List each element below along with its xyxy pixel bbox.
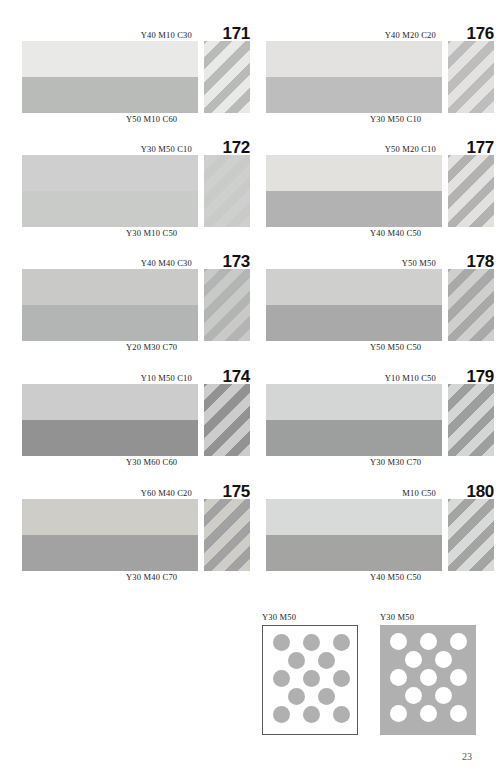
swatch-body [22, 269, 250, 341]
swatch-top-ink-label: Y10 M50 C10 [141, 373, 192, 383]
swatch-top-ink-label: Y40 M20 C20 [385, 30, 436, 40]
swatch-color-bars [22, 155, 198, 227]
halftone-panel-ink-label: Y30 M50 [262, 612, 358, 622]
swatch-bottom-ink-label: Y30 M10 C50 [126, 228, 177, 238]
halftone-dot [303, 706, 320, 723]
swatch-color-bars [266, 155, 442, 227]
swatch-bottom-ink-label: Y30 M60 C60 [126, 457, 177, 467]
color-swatch-172: Y30 M50 C10172Y30 M10 C50 [22, 136, 250, 244]
swatch-body [266, 41, 494, 113]
swatch-grid: Y40 M10 C30171Y50 M10 C60Y40 M20 C20176Y… [0, 0, 500, 600]
swatch-color-bars [22, 41, 198, 113]
swatch-bottom-ink-label: Y30 M50 C10 [370, 114, 421, 124]
swatch-bottom-ink-label: Y20 M30 C70 [126, 342, 177, 352]
halftone-panel-ink-label: Y30 M50 [380, 612, 476, 622]
reference-page: Y40 M10 C30171Y50 M10 C60Y40 M20 C20176Y… [0, 0, 500, 780]
halftone-dot [273, 634, 290, 651]
swatch-footer: Y30 M50 C10 [266, 113, 494, 128]
color-swatch-179: Y10 M10 C50179Y30 M30 C70 [266, 365, 494, 473]
swatch-body [266, 155, 494, 227]
swatch-bar-bottom [266, 305, 442, 341]
swatch-color-bars [22, 269, 198, 341]
halftone-dot [405, 687, 422, 704]
swatch-body [22, 41, 250, 113]
halftone-dot [390, 705, 407, 722]
swatch-top-ink-label: Y10 M10 C50 [385, 373, 436, 383]
halftone-dot-box [262, 625, 358, 735]
swatch-top-ink-label: Y30 M50 C10 [141, 144, 192, 154]
swatch-bottom-ink-label: Y50 M10 C60 [126, 114, 177, 124]
halftone-dot [420, 633, 437, 650]
swatch-bar-top [266, 499, 442, 535]
swatch-bottom-ink-label: Y30 M30 C70 [370, 457, 421, 467]
halftone-dot [333, 670, 350, 687]
swatch-diagonal-stripe-panel [204, 155, 250, 227]
swatch-body [266, 269, 494, 341]
halftone-dot [303, 670, 320, 687]
swatch-top-ink-label: Y50 M20 C10 [385, 144, 436, 154]
halftone-dot-box [380, 625, 476, 735]
swatch-color-bars [266, 41, 442, 113]
swatch-diagonal-stripe-panel [448, 155, 494, 227]
swatch-bar-top [22, 499, 198, 535]
swatch-bar-bottom [22, 305, 198, 341]
swatch-bottom-ink-label: Y50 M50 C50 [370, 342, 421, 352]
swatch-color-bars [266, 499, 442, 571]
swatch-color-bars [22, 384, 198, 456]
swatch-footer: Y50 M50 C50 [266, 341, 494, 356]
swatch-bar-bottom [266, 420, 442, 456]
halftone-dot [288, 652, 305, 669]
color-swatch-173: Y40 M40 C30173Y20 M30 C70 [22, 250, 250, 358]
swatch-top-ink-label: Y40 M10 C30 [141, 30, 192, 40]
swatch-bar-bottom [22, 535, 198, 571]
color-swatch-178: Y50 M50178Y50 M50 C50 [266, 250, 494, 358]
swatch-header: Y30 M50 C10172 [22, 136, 250, 155]
halftone-dot [333, 634, 350, 651]
swatch-body [22, 155, 250, 227]
swatch-top-ink-label: Y40 M40 C30 [141, 258, 192, 268]
swatch-header: Y40 M10 C30171 [22, 22, 250, 41]
halftone-dot [450, 705, 467, 722]
swatch-footer: Y50 M10 C60 [22, 113, 250, 128]
swatch-bar-top [22, 269, 198, 305]
swatch-body [266, 384, 494, 456]
swatch-header: Y10 M50 C10174 [22, 365, 250, 384]
swatch-footer: Y30 M10 C50 [22, 227, 250, 242]
page-number: 23 [462, 751, 472, 762]
swatch-color-bars [22, 499, 198, 571]
swatch-color-bars [266, 384, 442, 456]
halftone-dot [390, 633, 407, 650]
color-swatch-177: Y50 M20 C10177Y40 M40 C50 [266, 136, 494, 244]
color-swatch-180: M10 C50180Y40 M50 C50 [266, 480, 494, 588]
swatch-footer: Y40 M50 C50 [266, 571, 494, 586]
halftone-panel-2: Y30 M50 [380, 612, 476, 735]
swatch-bar-top [266, 384, 442, 420]
swatch-header: Y40 M40 C30173 [22, 250, 250, 269]
swatch-bar-bottom [266, 535, 442, 571]
swatch-diagonal-stripe-panel [204, 384, 250, 456]
swatch-top-ink-label: M10 C50 [402, 488, 436, 498]
halftone-dot [333, 706, 350, 723]
color-swatch-175: Y60 M40 C20175Y30 M40 C70 [22, 480, 250, 588]
swatch-bottom-ink-label: Y40 M40 C50 [370, 228, 421, 238]
swatch-bar-bottom [266, 77, 442, 113]
halftone-dot [318, 688, 335, 705]
halftone-dot [435, 651, 452, 668]
halftone-dot [318, 652, 335, 669]
swatch-diagonal-stripe-panel [204, 269, 250, 341]
swatch-bottom-ink-label: Y40 M50 C50 [370, 572, 421, 582]
swatch-diagonal-stripe-panel [448, 499, 494, 571]
swatch-header: Y40 M20 C20176 [266, 22, 494, 41]
swatch-bar-bottom [22, 77, 198, 113]
halftone-dot [303, 634, 320, 651]
halftone-dot [390, 669, 407, 686]
swatch-diagonal-stripe-panel [448, 41, 494, 113]
swatch-bar-top [22, 155, 198, 191]
swatch-header: Y50 M20 C10177 [266, 136, 494, 155]
halftone-dot [435, 687, 452, 704]
color-swatch-176: Y40 M20 C20176Y30 M50 C10 [266, 22, 494, 130]
swatch-bar-top [266, 269, 442, 305]
swatch-top-ink-label: Y50 M50 [402, 258, 436, 268]
halftone-dot [420, 705, 437, 722]
halftone-dot-demo-area: Y30 M50Y30 M50 [0, 604, 500, 754]
